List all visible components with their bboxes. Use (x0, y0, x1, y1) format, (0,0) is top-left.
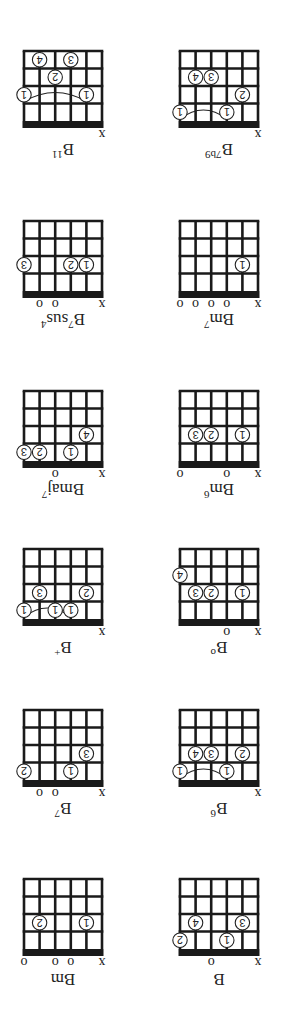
chord-suffix: + (54, 647, 60, 659)
finger-dot: 2 (235, 88, 249, 102)
svg-text:2: 2 (239, 89, 245, 101)
chord-root-label: Bm (51, 970, 76, 989)
finger-dot: 1 (48, 603, 62, 617)
chord-suffix: 7 (68, 319, 74, 331)
svg-text:2: 2 (21, 765, 27, 777)
svg-text:1: 1 (239, 587, 245, 599)
svg-text:3: 3 (21, 446, 27, 458)
svg-text:2: 2 (52, 71, 58, 83)
open-string-marker: o (221, 297, 233, 311)
muted-string-marker: x (96, 297, 108, 311)
svg-text:3: 3 (21, 259, 27, 271)
finger-dot: 1 (173, 764, 187, 778)
chord-name: B11 (24, 139, 102, 161)
chord-name: B6 (180, 798, 258, 820)
svg-text:1: 1 (83, 259, 89, 271)
open-string-marker: o (174, 297, 186, 311)
fretboard-grid: 123 (174, 385, 264, 467)
string-markers: x (180, 127, 258, 141)
open-string-marker: o (221, 467, 233, 481)
finger-dot: 2 (204, 586, 218, 600)
string-markers: xoo (180, 467, 258, 481)
finger-dot: 3 (188, 428, 202, 442)
svg-text:2: 2 (208, 587, 214, 599)
string-markers: xoo (24, 297, 102, 311)
chord-name: Bo (180, 637, 258, 659)
finger-dot: 1 (64, 603, 78, 617)
finger-dot: 3 (32, 586, 46, 600)
finger-dot: 1 (235, 428, 249, 442)
svg-text:4: 4 (193, 917, 199, 929)
chord-suffix: 6 (204, 489, 210, 501)
fretboard-grid: 21341 (174, 45, 264, 127)
chord-root-label: B (60, 638, 71, 657)
chord-name: B7 (24, 798, 102, 820)
svg-text:1: 1 (239, 259, 245, 271)
finger-dot: 1 (79, 916, 93, 930)
open-string-marker: o (49, 786, 61, 800)
open-string-marker: o (49, 467, 61, 481)
string-markers: xo (24, 467, 102, 481)
chord-suffix: 7 (55, 808, 61, 820)
fretboard-grid: 312 (18, 704, 108, 786)
finger-dot: 2 (17, 764, 31, 778)
svg-text:1: 1 (83, 917, 89, 929)
chord-root-label: Bm (209, 310, 234, 329)
fretboard-grid: 1 (174, 215, 264, 297)
string-markers: xo (180, 625, 258, 639)
finger-dot: 1 (79, 88, 93, 102)
svg-text:1: 1 (224, 934, 230, 946)
finger-dot: 1 (17, 88, 31, 102)
chord-root-label: Bmaj (47, 480, 84, 499)
svg-text:2: 2 (37, 446, 43, 458)
string-markers: xoo (24, 786, 102, 800)
svg-text:3: 3 (193, 587, 199, 599)
chord-suffix: 7b9 (205, 149, 222, 161)
finger-dot: 1 (64, 764, 78, 778)
svg-text:1: 1 (224, 106, 230, 118)
svg-text:4: 4 (177, 569, 183, 581)
string-markers: x (180, 786, 258, 800)
muted-string-marker: x (252, 955, 264, 969)
open-string-marker: o (205, 297, 217, 311)
svg-text:1: 1 (68, 604, 74, 616)
muted-string-marker: x (252, 297, 264, 311)
open-string-marker: o (221, 625, 233, 639)
muted-string-marker: x (252, 625, 264, 639)
finger-dot: 4 (173, 568, 187, 582)
svg-text:1: 1 (177, 765, 183, 777)
chord-root-label: B (63, 140, 74, 159)
finger-dot: 1 (173, 105, 187, 119)
finger-dot: 2 (235, 747, 249, 761)
svg-text:3: 3 (193, 429, 199, 441)
svg-text:1: 1 (224, 765, 230, 777)
finger-dot: 1 (235, 258, 249, 272)
finger-dot: 1 (220, 933, 234, 947)
finger-dot: 4 (79, 428, 93, 442)
finger-dot: 3 (64, 53, 78, 67)
chord-diagram-b7b9: B7b9x21341 (180, 0, 258, 121)
finger-dot: 2 (64, 258, 78, 272)
finger-dot: 3 (204, 70, 218, 84)
chord-sus: sus (46, 310, 68, 329)
svg-text:1: 1 (52, 604, 58, 616)
string-markers: x (24, 625, 102, 639)
svg-text:4: 4 (83, 429, 89, 441)
svg-text:2: 2 (177, 934, 183, 946)
finger-dot: 1 (235, 586, 249, 600)
fretboard-grid: 1234 (174, 543, 264, 625)
finger-dot: 4 (188, 916, 202, 930)
svg-text:3: 3 (239, 917, 245, 929)
fretboard-grid: 123 (18, 215, 108, 297)
svg-text:3: 3 (208, 71, 214, 83)
open-string-marker: o (18, 955, 30, 969)
chord-name: B7sus4 (24, 309, 102, 331)
svg-text:1: 1 (21, 604, 27, 616)
chord-name: Bmaj7 (24, 479, 102, 501)
chord-name: Bm7 (180, 309, 258, 331)
chord-suffix: 11 (52, 149, 63, 161)
chord-name: Bm (24, 969, 102, 989)
finger-dot: 2 (79, 586, 93, 600)
muted-string-marker: x (252, 127, 264, 141)
chord-root-label: B (60, 799, 71, 818)
